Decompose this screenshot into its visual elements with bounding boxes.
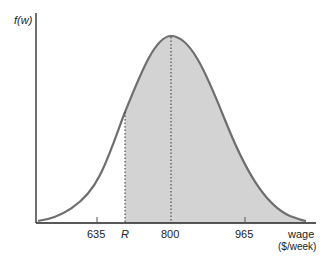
- x-axis-units: ($/week): [278, 241, 316, 252]
- tick-label-r: R: [121, 228, 129, 240]
- tick-label-965: 965: [235, 228, 253, 240]
- tick-label-635: 635: [87, 228, 105, 240]
- x-axis-label: wage: [288, 228, 314, 240]
- tick-label-800: 800: [161, 228, 179, 240]
- y-axis-label: f(w): [14, 14, 32, 26]
- shaded-region: [125, 36, 306, 223]
- wage-distribution-chart: [0, 0, 334, 263]
